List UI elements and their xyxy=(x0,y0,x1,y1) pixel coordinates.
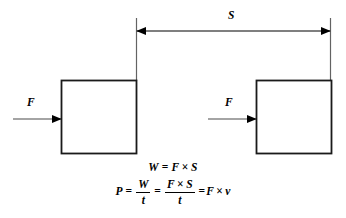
work-force-symbol: F xyxy=(171,162,179,174)
numerator-force-symbol: F xyxy=(167,178,175,190)
fraction-denominator-time: t xyxy=(176,193,183,206)
work-equals: = xyxy=(159,162,172,174)
work-displacement-symbol: S xyxy=(191,162,198,174)
fraction-numerator-work: W xyxy=(136,178,150,191)
numerator-displacement-symbol: S xyxy=(186,178,192,190)
numerator-times-operator: × xyxy=(175,178,187,190)
displacement-label: S xyxy=(228,10,234,22)
fraction-numerator-force-displacement: F × S xyxy=(165,178,195,191)
force-label-right: F xyxy=(225,97,233,109)
fraction-denominator-time: t xyxy=(140,193,147,206)
work-symbol: W xyxy=(148,162,158,174)
physics-diagram: S F F W = F × S P = W t = F × S xyxy=(0,0,346,218)
formula-block: W = F × S P = W t = F × S t xyxy=(0,160,346,207)
result-times-operator: × xyxy=(214,186,226,198)
work-over-time-fraction: W t xyxy=(135,178,151,205)
power-equals-1: = xyxy=(123,186,136,198)
power-equals-2: = xyxy=(151,186,164,198)
block-start xyxy=(62,81,137,154)
result-force-symbol: F xyxy=(206,186,214,198)
result-velocity-symbol: v xyxy=(225,186,230,198)
force-displacement-over-time-fraction: F × S t xyxy=(164,178,196,205)
block-end xyxy=(257,81,332,154)
work-formula: W = F × S xyxy=(0,160,346,176)
power-equals-3: = xyxy=(196,186,207,198)
power-formula: P = W t = F × S t = F × v xyxy=(0,177,346,207)
force-label-left: F xyxy=(27,97,35,109)
power-symbol: P xyxy=(116,186,123,198)
work-times-operator: × xyxy=(179,162,191,174)
